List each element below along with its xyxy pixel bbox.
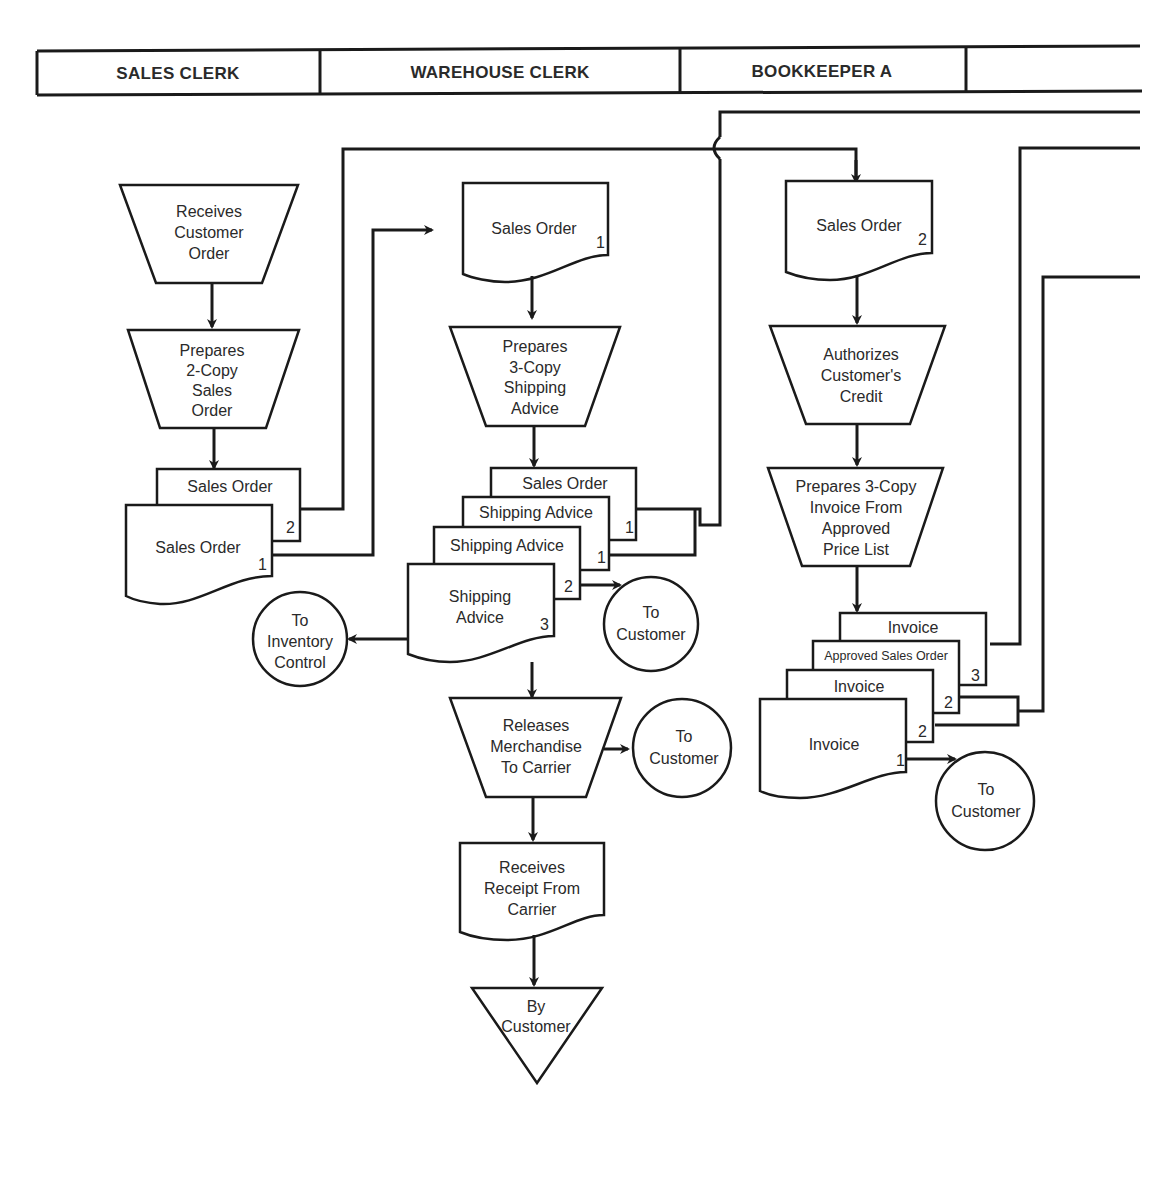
shipping-stack-advice-1-label: Shipping Advice — [479, 504, 593, 521]
to-customer-1-label-1: To — [643, 604, 660, 621]
prepares-invoice-label-1: Prepares 3-Copy — [796, 478, 917, 495]
invoice-stack-copy-3-number: 3 — [971, 667, 980, 684]
by-customer-label-2: Customer — [501, 1018, 571, 1035]
to-inventory-label-1: To — [292, 612, 309, 629]
to-customer-2-label-1: To — [676, 728, 693, 745]
prepares-sales-order-label-1: Prepares — [180, 342, 245, 359]
sales-order-copy-1-number: 1 — [258, 556, 267, 573]
receives-receipt-label-3: Carrier — [508, 901, 558, 918]
sales-order-copy-2-number: 2 — [286, 519, 295, 536]
prepares-sales-order-label-2: 2-Copy — [186, 362, 238, 379]
prepares-shipping-label-4: Advice — [511, 400, 559, 417]
sales-order-copy-1-label: Sales Order — [155, 539, 241, 556]
bookkeeper-sales-order-label: Sales Order — [816, 217, 902, 234]
releases-label-3: To Carrier — [501, 759, 572, 776]
invoice-stack-copy-2-label: Invoice — [834, 678, 885, 695]
warehouse-clerk-lane: Sales Order 1 Prepares 3-Copy Shipping A… — [349, 183, 731, 1083]
invoice-stack-copy-2-number: 2 — [918, 723, 927, 740]
invoice-stack-copy-1-label: Invoice — [809, 736, 860, 753]
shipping-stack-advice-3-label-2: Advice — [456, 609, 504, 626]
shipping-stack-advice-3-label-1: Shipping — [449, 588, 511, 605]
prepares-invoice-label-4: Price List — [823, 541, 889, 558]
shipping-stack-advice-2-number: 2 — [564, 578, 573, 595]
by-customer-label-1: By — [527, 998, 546, 1015]
to-customer-1-label-2: Customer — [616, 626, 686, 643]
approved-sales-order-number: 2 — [944, 694, 953, 711]
sales-clerk-lane: Receives Customer Order Prepares 2-Copy … — [120, 185, 347, 686]
prepares-shipping-label-3: Shipping — [504, 379, 566, 396]
to-inventory-label-3: Control — [274, 654, 326, 671]
receives-receipt-label-1: Receives — [499, 859, 565, 876]
approved-sales-order-label: Approved Sales Order — [824, 649, 948, 663]
lane-sales-clerk: SALES CLERK — [116, 64, 240, 83]
shipping-stack-advice-2-label: Shipping Advice — [450, 537, 564, 554]
authorizes-label-3: Credit — [840, 388, 883, 405]
bookkeeper-to-customer-connector — [936, 752, 1034, 850]
shipping-stack-sales-order-number: 1 — [625, 519, 634, 536]
prepares-invoice-label-2: Invoice From — [810, 499, 902, 516]
invoice-stack-copy-1-number: 1 — [896, 752, 905, 769]
bookkeeper-a-lane: Sales Order 2 Authorizes Customer's Cred… — [760, 181, 1034, 850]
shipping-stack-advice-1-number: 1 — [597, 549, 606, 566]
prepares-invoice-label-3: Approved — [822, 520, 891, 537]
bookkeeper-to-customer-label-2: Customer — [951, 803, 1021, 820]
lane-warehouse-clerk: WAREHOUSE CLERK — [410, 63, 590, 82]
receives-customer-order-label-2: Customer — [174, 224, 244, 241]
authorizes-label-2: Customer's — [821, 367, 901, 384]
authorizes-label-1: Authorizes — [823, 346, 899, 363]
swimlane-header: SALES CLERK WAREHOUSE CLERK BOOKKEEPER A — [37, 46, 1142, 95]
prepares-sales-order-label-4: Order — [192, 402, 234, 419]
warehouse-sales-order-number: 1 — [596, 234, 605, 251]
bookkeeper-sales-order-number: 2 — [918, 231, 927, 248]
receives-customer-order-label-3: Order — [189, 245, 231, 262]
bookkeeper-to-customer-label-1: To — [978, 781, 995, 798]
receives-customer-order-label-1: Receives — [176, 203, 242, 220]
sales-order-flowchart: SALES CLERK WAREHOUSE CLERK BOOKKEEPER A… — [0, 0, 1176, 1182]
to-customer-connector-2 — [633, 699, 731, 797]
shipping-stack-advice-3-number: 3 — [540, 616, 549, 633]
to-customer-connector-1 — [604, 577, 698, 671]
releases-label-1: Releases — [503, 717, 570, 734]
lane-bookkeeper-a: BOOKKEEPER A — [752, 62, 893, 81]
receives-receipt-label-2: Receipt From — [484, 880, 580, 897]
invoice-stack-copy-3-label: Invoice — [888, 619, 939, 636]
prepares-shipping-label-1: Prepares — [503, 338, 568, 355]
shipping-stack-sales-order-label: Sales Order — [522, 475, 608, 492]
prepares-sales-order-label-3: Sales — [192, 382, 232, 399]
to-customer-2-label-2: Customer — [649, 750, 719, 767]
to-inventory-label-2: Inventory — [267, 633, 333, 650]
warehouse-sales-order-label: Sales Order — [491, 220, 577, 237]
releases-label-2: Merchandise — [490, 738, 582, 755]
prepares-shipping-label-2: 3-Copy — [509, 359, 561, 376]
connector-lines — [258, 112, 1140, 725]
sales-order-copy-2-label: Sales Order — [187, 478, 273, 495]
